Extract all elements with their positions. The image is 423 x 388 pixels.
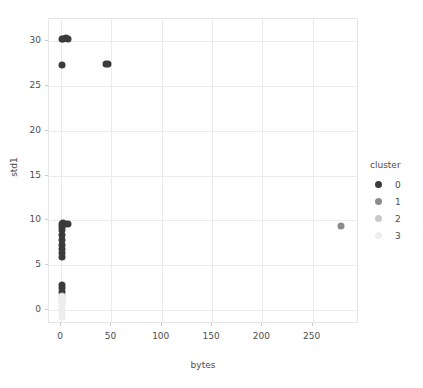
plot-panel: [48, 18, 358, 323]
legend-item-label: 3: [395, 231, 401, 241]
data-point: [59, 253, 66, 260]
legend-item[interactable]: 1: [370, 193, 420, 210]
y-tick-label: 20: [11, 125, 41, 135]
y-tick-label: 0: [11, 304, 41, 314]
x-tick-mark: [312, 323, 313, 326]
legend-swatch-wrap: [370, 181, 387, 188]
y-tick-mark: [45, 175, 48, 176]
x-tick-label: 100: [152, 331, 169, 341]
y-tick-label: 5: [11, 259, 41, 269]
y-tick-mark: [45, 40, 48, 41]
x-axis-title: bytes: [48, 360, 358, 370]
y-tick-mark: [45, 309, 48, 310]
x-tick-label: 200: [253, 331, 270, 341]
legend-item[interactable]: 2: [370, 210, 420, 227]
legend-swatch-icon: [375, 181, 382, 188]
y-tick-mark: [45, 85, 48, 86]
legend-item[interactable]: 0: [370, 176, 420, 193]
x-tick-label: 250: [303, 331, 320, 341]
data-point: [337, 222, 344, 229]
legend-swatch-wrap: [370, 198, 387, 205]
x-tick-mark: [161, 323, 162, 326]
legend-swatch-icon: [375, 232, 382, 239]
x-tick-mark: [261, 323, 262, 326]
legend-item-label: 2: [395, 214, 401, 224]
x-tick-mark: [60, 323, 61, 326]
legend-swatch-wrap: [370, 215, 387, 222]
y-tick-label: 25: [11, 80, 41, 90]
x-tick-mark: [211, 323, 212, 326]
y-axis-title: std1: [9, 147, 19, 187]
y-tick-mark: [45, 219, 48, 220]
y-tick-mark: [45, 264, 48, 265]
legend: cluster 0123: [370, 160, 420, 244]
data-points-layer: [49, 19, 357, 322]
data-point: [59, 313, 66, 320]
data-point: [65, 35, 72, 42]
y-tick-label: 10: [11, 214, 41, 224]
legend-item-label: 1: [395, 197, 401, 207]
data-point: [59, 61, 66, 68]
legend-item[interactable]: 3: [370, 227, 420, 244]
x-tick-label: 150: [202, 331, 219, 341]
legend-swatch-icon: [375, 198, 382, 205]
legend-title: cluster: [370, 160, 420, 170]
data-point: [104, 60, 111, 67]
y-tick-mark: [45, 130, 48, 131]
legend-swatch-icon: [375, 215, 382, 222]
x-tick-label: 50: [105, 331, 116, 341]
legend-item-label: 0: [395, 180, 401, 190]
y-tick-label: 30: [11, 35, 41, 45]
legend-entries: 0123: [370, 176, 420, 244]
scatter-plot-figure: 051015202530 050100150200250 bytes std1 …: [0, 0, 423, 388]
x-tick-label: 0: [57, 331, 63, 341]
x-tick-mark: [110, 323, 111, 326]
data-point: [64, 220, 71, 227]
legend-swatch-wrap: [370, 232, 387, 239]
